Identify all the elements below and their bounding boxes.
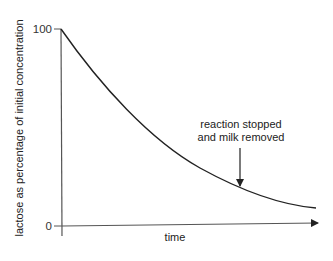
x-axis-label: time [165, 231, 186, 243]
annotation-line-2: and milk removed [198, 131, 285, 143]
y-tick-label-100: 100 [33, 23, 52, 35]
y-tick-label-0: 0 [46, 220, 52, 232]
lactose-chart: 100 0 lactose as percentage of initial c… [0, 0, 333, 261]
y-axis-label: lactose as percentage of initial concent… [13, 19, 25, 236]
y-axis [61, 29, 62, 236]
annotation-line-1: reaction stopped [200, 118, 281, 130]
x-axis [62, 223, 318, 226]
